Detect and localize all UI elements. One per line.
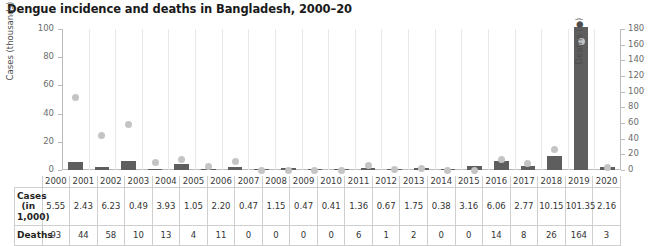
y-tick-left xyxy=(58,57,62,58)
table-row-cases: Cases(in 1,000)5.552.436.230.493.931.052… xyxy=(15,188,621,226)
category-separator xyxy=(541,29,542,170)
y-tick-left xyxy=(58,142,62,143)
dot-2007 xyxy=(258,167,265,174)
table-year-2014: 2014 xyxy=(427,176,455,188)
table-cases-2003: 0.49 xyxy=(125,188,153,226)
table-year-2015: 2015 xyxy=(455,176,483,188)
table-deaths-2020: 3 xyxy=(593,226,621,246)
table-year-2005: 2005 xyxy=(180,176,208,188)
y-tick-left xyxy=(58,29,62,30)
dot-2006 xyxy=(232,158,239,165)
y-tick-label-left: 40 xyxy=(32,109,54,118)
table-cases-2004: 3.93 xyxy=(152,188,180,226)
y-tick-label-left: 80 xyxy=(32,52,54,61)
y-tick-right xyxy=(621,92,625,93)
table-deaths-2013: 2 xyxy=(400,226,428,246)
y-tick-label-left: 100 xyxy=(32,24,54,33)
table-year-2009: 2009 xyxy=(290,176,318,188)
y-tick-left xyxy=(58,170,62,171)
table-year-2007: 2007 xyxy=(235,176,263,188)
y-tick-right xyxy=(621,60,625,61)
table-deaths-2012: 1 xyxy=(372,226,400,246)
table-deaths-2001: 44 xyxy=(70,226,98,246)
table-header-row: 2000200120022003200420052006200720082009… xyxy=(15,176,621,188)
category-separator xyxy=(515,29,516,170)
y-tick-label-right: 100 xyxy=(628,87,644,96)
table-deaths-2018: 26 xyxy=(538,226,566,246)
table-cases-2020: 2.16 xyxy=(593,188,621,226)
dot-2008 xyxy=(285,167,292,174)
table-year-2019: 2019 xyxy=(565,176,593,188)
dot-2001 xyxy=(98,132,105,139)
category-separator xyxy=(275,29,276,170)
y-tick-right xyxy=(621,154,625,155)
table-cases-2018: 10.15 xyxy=(538,188,566,226)
table-year-2010: 2010 xyxy=(317,176,345,188)
table-cases-2008: 1.15 xyxy=(262,188,290,226)
table-year-2013: 2013 xyxy=(400,176,428,188)
dot-2018 xyxy=(551,146,558,153)
y-tick-right xyxy=(621,45,625,46)
y-tick-label-right: 160 xyxy=(628,40,644,49)
table-cases-2012: 0.67 xyxy=(372,188,400,226)
table-year-2016: 2016 xyxy=(483,176,511,188)
table-corner-cell xyxy=(15,176,43,188)
y-tick-right xyxy=(621,76,625,77)
cases-label-line2: (in 1,000) xyxy=(17,201,40,222)
category-separator xyxy=(568,29,569,170)
table-year-2003: 2003 xyxy=(125,176,153,188)
y-tick-label-right: 20 xyxy=(628,149,639,158)
y-tick-label-right: 60 xyxy=(628,118,639,127)
bar-2002 xyxy=(121,161,136,170)
table-rowheader-deaths: Deaths xyxy=(15,226,43,246)
table-deaths-2010: 0 xyxy=(317,226,345,246)
table-deaths-2014: 0 xyxy=(427,226,455,246)
category-separator xyxy=(408,29,409,170)
y-tick-label-left: 20 xyxy=(32,137,54,146)
table-row-deaths: Deaths9344581013411000061200148261643 xyxy=(15,226,621,246)
y-tick-right xyxy=(621,170,625,171)
dot-2013 xyxy=(418,165,425,172)
table-cases-2009: 0.47 xyxy=(290,188,318,226)
table-cases-2016: 6.06 xyxy=(483,188,511,226)
table-year-2006: 2006 xyxy=(207,176,235,188)
bar-2016 xyxy=(494,161,509,170)
y-axis-right-label: Deaths (●) xyxy=(574,0,584,101)
data-table: 2000200120022003200420052006200720082009… xyxy=(14,176,621,246)
cases-label-line1: Cases xyxy=(17,191,40,201)
table-deaths-2019: 164 xyxy=(565,226,593,246)
category-separator xyxy=(168,29,169,170)
y-tick-label-right: 180 xyxy=(628,24,644,33)
table-year-2004: 2004 xyxy=(152,176,180,188)
dot-2002 xyxy=(125,121,132,128)
y-tick-label-right: 80 xyxy=(628,102,639,111)
table-year-2001: 2001 xyxy=(70,176,98,188)
table-year-2000: 2000 xyxy=(42,176,70,188)
y-tick-right xyxy=(621,29,625,30)
category-separator xyxy=(488,29,489,170)
dot-2000 xyxy=(72,94,79,101)
table-deaths-2003: 10 xyxy=(125,226,153,246)
table-cases-2015: 3.16 xyxy=(455,188,483,226)
category-separator xyxy=(461,29,462,170)
table-cases-2007: 0.47 xyxy=(235,188,263,226)
table-deaths-2009: 0 xyxy=(290,226,318,246)
dot-2015 xyxy=(471,167,478,174)
table-deaths-2004: 13 xyxy=(152,226,180,246)
y-tick-left xyxy=(58,114,62,115)
category-separator xyxy=(435,29,436,170)
table-cases-2010: 0.41 xyxy=(317,188,345,226)
category-separator xyxy=(115,29,116,170)
table-year-2020: 2020 xyxy=(593,176,621,188)
dot-2016 xyxy=(498,156,505,163)
dot-2009 xyxy=(311,167,318,174)
chart-plot-area: 020406080100 020406080100120140160180 xyxy=(62,29,621,170)
dot-2012 xyxy=(391,166,398,173)
page-title: Dengue incidence and deaths in Banglades… xyxy=(7,2,352,16)
y-tick-label-right: 120 xyxy=(628,71,644,80)
y-tick-right xyxy=(621,123,625,124)
table-cases-2013: 1.75 xyxy=(400,188,428,226)
table-cases-2002: 6.23 xyxy=(97,188,125,226)
bar-2006 xyxy=(228,167,243,170)
table-cases-2019: 101.35 xyxy=(565,188,593,226)
